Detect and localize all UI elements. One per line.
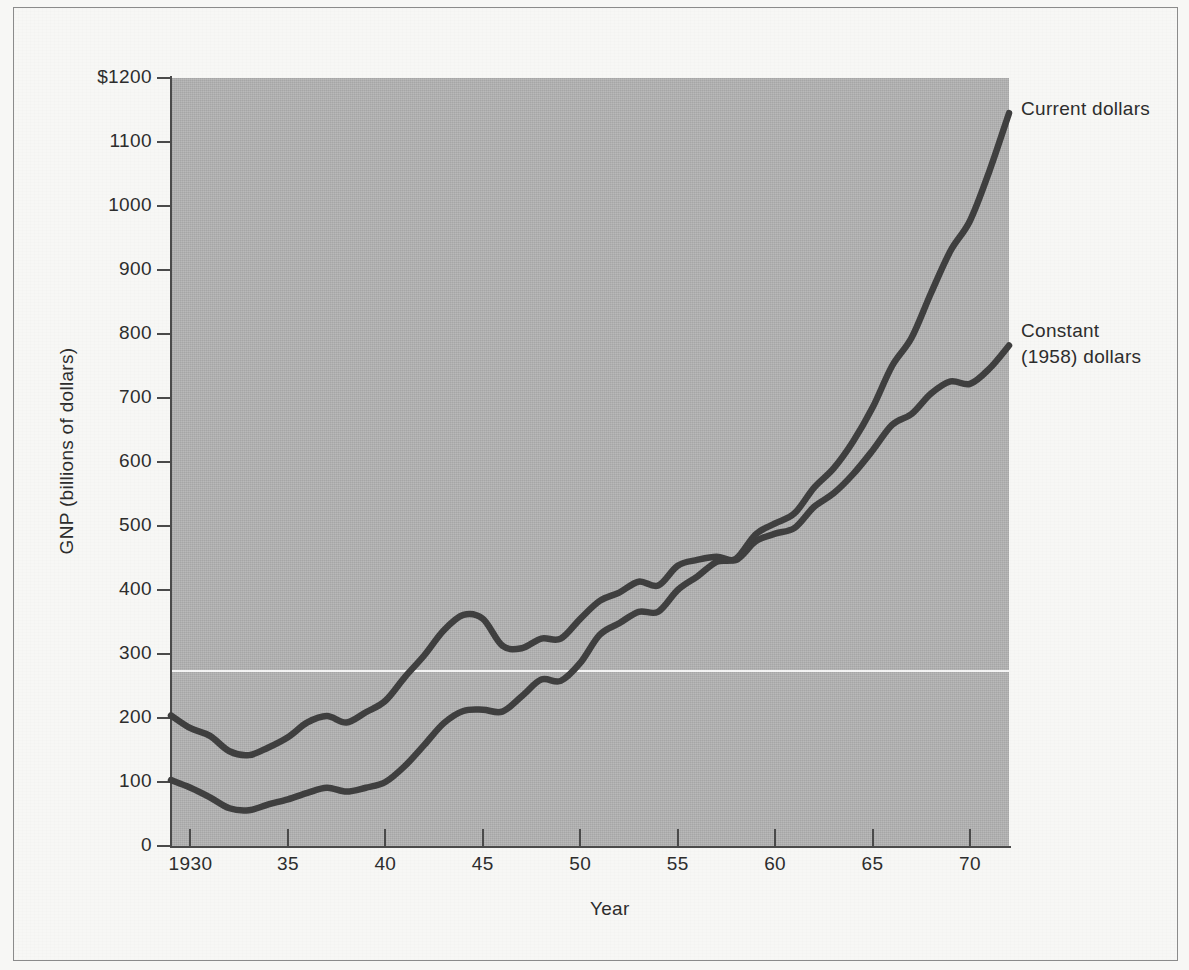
y-tick-1100 <box>157 141 171 143</box>
y-tick-label-1000: 1000 <box>60 194 152 216</box>
y-tick-300 <box>157 653 171 655</box>
y-tick-400 <box>157 589 171 591</box>
y-tick-0 <box>157 845 171 847</box>
x-tick-label-1940: 40 <box>374 853 396 875</box>
y-tick-label-0: 0 <box>60 834 152 856</box>
y-tick-1000 <box>157 205 171 207</box>
line-current-dollars <box>171 113 1009 810</box>
figure-root: 010020030040050060070080090010001100$120… <box>0 0 1189 970</box>
y-axis-title: GNP (billions of dollars) <box>56 291 78 611</box>
y-tick-800 <box>157 333 171 335</box>
x-tick-label-1955: 55 <box>667 853 689 875</box>
x-axis-title: Year <box>590 898 630 920</box>
figure-frame: 010020030040050060070080090010001100$120… <box>13 7 1178 961</box>
x-tick-label-1970: 70 <box>959 853 981 875</box>
x-tick-label-1960: 60 <box>764 853 786 875</box>
x-axis-line <box>170 846 1011 848</box>
series-curves <box>171 78 1009 846</box>
y-tick-label-900: 900 <box>60 258 152 280</box>
y-tick-label-200: 200 <box>60 706 152 728</box>
y-tick-700 <box>157 397 171 399</box>
x-tick-label-1950: 50 <box>569 853 591 875</box>
y-tick-label-100: 100 <box>60 770 152 792</box>
series-label-current-dollars: Current dollars <box>1021 96 1150 122</box>
x-tick-label-1965: 65 <box>862 853 884 875</box>
line-constant-dollars <box>171 346 1009 756</box>
x-tick-label-1935: 35 <box>277 853 299 875</box>
x-tick-label-1945: 45 <box>472 853 494 875</box>
y-tick-label-1100: 1100 <box>60 130 152 152</box>
x-tick-label-1930: 1930 <box>169 853 213 875</box>
y-tick-600 <box>157 461 171 463</box>
y-tick-900 <box>157 269 171 271</box>
y-tick-500 <box>157 525 171 527</box>
y-tick-label-1200: $1200 <box>60 66 152 88</box>
y-tick-1200 <box>157 77 171 79</box>
y-tick-label-300: 300 <box>60 642 152 664</box>
series-label-constant-dollars: Constant (1958) dollars <box>1021 318 1141 369</box>
